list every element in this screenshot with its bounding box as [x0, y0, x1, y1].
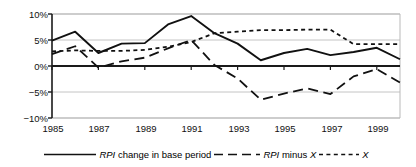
legend-item-rpi-change: RPI change in base period	[44, 149, 214, 160]
dashed-line-swatch	[214, 151, 260, 158]
legend-italic-rpi: RPI	[99, 149, 115, 160]
y-tick-label-5: 5%	[8, 35, 48, 46]
chart-figure: 10% 5% 0% −5% −10% 1985 1987 1989 1991 1…	[0, 0, 416, 167]
dotted-line-swatch	[319, 151, 359, 158]
legend-italic-rpi-2: RPI	[263, 149, 279, 160]
legend-italic-x-2: X	[362, 149, 368, 160]
x-tick-label-1999: 1999	[355, 123, 401, 134]
legend-label-x: X	[359, 149, 371, 160]
x-tick-label-1995: 1995	[262, 123, 308, 134]
x-tick-label-1991: 1991	[169, 123, 215, 134]
legend-italic-x-1: X	[310, 149, 316, 160]
x-tick-label-1987: 1987	[76, 123, 122, 134]
legend-label-rpi-change: RPI change in base period	[96, 149, 214, 160]
legend-label-rpi-minus-x: RPI minus X	[260, 149, 319, 160]
legend-item-rpi-minus-x: RPI minus X	[214, 149, 319, 160]
x-tick-label-1997: 1997	[309, 123, 355, 134]
legend-rest-minus: minus	[279, 149, 310, 160]
chart-legend: RPI change in base period RPI minus X X	[0, 141, 416, 167]
y-tick-label-neg5: −5%	[8, 87, 48, 98]
x-tick-label-1993: 1993	[216, 123, 262, 134]
y-tick-label-0: 0%	[8, 61, 48, 72]
x-tick-label-1985: 1985	[30, 123, 76, 134]
y-tick-label-10: 10%	[8, 9, 48, 20]
legend-item-x: X	[319, 149, 371, 160]
legend-rest-rpi-change: change in base period	[115, 149, 211, 160]
solid-line-swatch	[44, 151, 96, 158]
x-tick-label-1989: 1989	[123, 123, 169, 134]
